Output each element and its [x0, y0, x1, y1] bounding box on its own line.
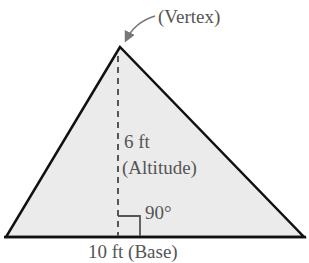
altitude-name-label: (Altitude)	[122, 158, 197, 177]
base-label: 10 ft (Base)	[88, 242, 178, 261]
triangle-diagram: (Vertex) 6 ft (Altitude) 90° 10 ft (Base…	[0, 0, 309, 263]
angle-label: 90°	[145, 203, 172, 222]
vertex-label: (Vertex)	[158, 7, 220, 26]
triangle-svg	[0, 0, 309, 263]
vertex-arrow-icon	[126, 16, 155, 40]
altitude-value-label: 6 ft	[124, 132, 150, 151]
